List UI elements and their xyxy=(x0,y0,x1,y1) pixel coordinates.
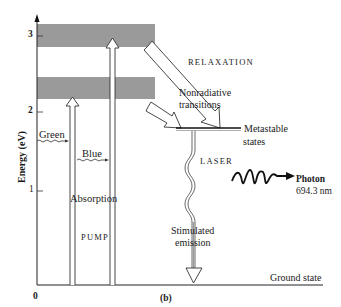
blue-wave-icon xyxy=(77,159,107,161)
tick-label-3: 3 xyxy=(28,29,33,39)
laser-label: LASER xyxy=(200,156,233,167)
nonradiative-label-line2: transitions xyxy=(179,99,221,110)
absorption-label: Absorption xyxy=(70,193,117,204)
photon-wave xyxy=(232,170,287,183)
green-label: Green xyxy=(39,129,65,140)
y-axis-title: Energy (eV) xyxy=(16,131,27,183)
metastable-label-line1: Metastable xyxy=(244,123,288,134)
wavelength-label: 694.3 nm xyxy=(296,186,332,197)
tick-label-1: 1 xyxy=(29,184,34,194)
tick-label-2: 2 xyxy=(28,105,33,115)
lower-absorption-band xyxy=(37,77,155,99)
ground-state-label: Ground state xyxy=(270,272,321,283)
blue-pump-arrow xyxy=(106,38,119,285)
relaxation-label: RELAXATION xyxy=(188,57,254,68)
blue-label: Blue xyxy=(82,148,102,159)
y-axis-arrowhead xyxy=(35,14,40,22)
upper-absorption-band xyxy=(37,24,155,47)
stimulated-label-line2: emission xyxy=(175,237,211,248)
energy-level-diagram xyxy=(0,0,341,307)
nonradiative-arrow-lower xyxy=(146,102,181,128)
photon-arrowhead xyxy=(286,172,295,180)
stimulated-label-line1: Stimulated xyxy=(171,225,214,236)
laser-emission-arrow xyxy=(185,131,202,283)
metastable-label-line2: states xyxy=(243,136,265,147)
green-wave-icon xyxy=(37,140,67,142)
tick-label-0: 0 xyxy=(33,291,38,301)
green-pump-arrow xyxy=(66,97,79,285)
pump-label: PUMP xyxy=(81,232,109,243)
nonradiative-label-line1: Nonradiative xyxy=(179,87,231,98)
blue-wave-arrowhead xyxy=(105,159,109,162)
photon-label: Photon xyxy=(296,174,325,185)
panel-label: (b) xyxy=(160,293,172,304)
green-wave-arrowhead xyxy=(65,140,69,143)
